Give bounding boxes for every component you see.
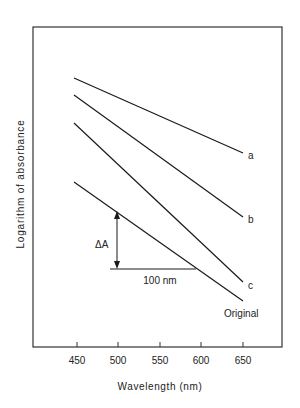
arrow-down-icon	[114, 261, 120, 269]
arrow-up-icon	[114, 211, 120, 219]
tick-label-500: 500	[110, 355, 127, 366]
series-line-b	[74, 95, 243, 217]
chart-canvas: 450 500 550 600 650 Wavelength (nm) Loga…	[0, 0, 300, 408]
hundred-nm-label: 100 nm	[143, 275, 176, 286]
tick-label-600: 600	[193, 355, 210, 366]
tick-label-450: 450	[69, 355, 86, 366]
tick-label-650: 650	[235, 355, 252, 366]
series-label-b: b	[248, 214, 254, 225]
series-line-c	[74, 123, 243, 282]
y-axis-title: Logarithm of absorbance	[15, 119, 26, 248]
delta-a-label: ΔA	[95, 239, 109, 250]
series-label-original: Original	[224, 308, 258, 319]
x-axis-tick-labels: 450 500 550 600 650	[69, 355, 252, 366]
x-axis-title: Wavelength (nm)	[118, 381, 203, 392]
series-label-c: c	[248, 280, 253, 291]
delta-a-annotation: ΔA 100 nm	[95, 211, 196, 286]
tick-label-550: 550	[152, 355, 169, 366]
plot-frame	[33, 27, 282, 347]
x-axis-ticks	[77, 342, 243, 347]
series-line-a	[74, 78, 243, 153]
series-label-a: a	[248, 150, 254, 161]
